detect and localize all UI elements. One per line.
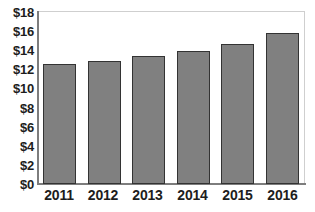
x-axis-tick-label-2012: 2012 [81,188,125,202]
bar-2012[interactable] [88,61,121,184]
y-axis-tick-label: $16 [0,25,34,38]
y-axis-tick-label: $0 [0,178,34,191]
x-axis-tick-label-2013: 2013 [125,188,170,202]
bar-2016[interactable] [266,33,299,184]
bar-2015[interactable] [221,44,254,184]
y-axis-tick-label: $2 [0,159,34,172]
bar-2014[interactable] [177,51,210,184]
x-axis-tick-label-2011: 2011 [37,188,81,202]
y-axis-tick-label: $18 [0,6,34,19]
x-axis-tick-label-2014: 2014 [170,188,215,202]
y-axis-tick-label: $6 [0,121,34,134]
plot-area [37,11,305,184]
y-axis-tick-label: $14 [0,44,34,57]
y-axis-line [37,11,39,185]
x-axis-tick-label-2016: 2016 [260,188,305,202]
bar-2013[interactable] [132,56,165,184]
bar-chart: $18 $16 $14 $12 $10 $8 $6 $4 $2 $0 2011 … [0,0,315,212]
y-axis-tick-label: $10 [0,82,34,95]
y-axis-tick-label: $8 [0,102,34,115]
bar-2011[interactable] [43,64,76,184]
y-axis-tick-label: $4 [0,140,34,153]
y-axis-tick-label: $12 [0,63,34,76]
x-axis-tick-label-2015: 2015 [215,188,260,202]
